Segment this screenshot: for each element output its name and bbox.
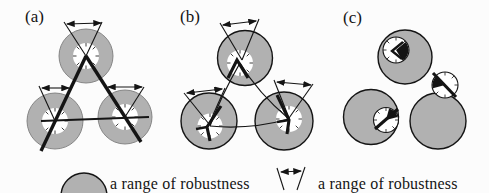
panel-a-label: (a) (25, 7, 44, 26)
dial-c-left (374, 108, 399, 133)
panel-b-label: (b) (180, 7, 200, 26)
paper-figure: (a) (b) (0, 0, 489, 193)
panel-c-label: (c) (343, 8, 362, 27)
panel-a: (a) (25, 7, 152, 151)
legend-gray-circle (61, 173, 107, 193)
range-arrow-right (277, 82, 311, 85)
figure-canvas: (a) (b) (0, 0, 489, 193)
range-arrow-top (67, 23, 101, 24)
legend-range-arrow-icon (277, 167, 305, 190)
figure-legend: a range of robustness a range of robustn… (61, 167, 458, 193)
panel-c: (c) (343, 8, 466, 149)
robot-circle-c-right (410, 93, 466, 149)
legend-label-2: a range of robustness (318, 175, 458, 193)
robot-circle-b-top (218, 31, 273, 86)
panel-b: (b) (180, 7, 313, 150)
dial-c-right (432, 72, 458, 98)
legend-label-1: a range of robustness (110, 175, 250, 193)
dial-c-top (383, 37, 409, 63)
range-arrow-left (187, 89, 222, 93)
range-arrow-top (223, 21, 256, 25)
